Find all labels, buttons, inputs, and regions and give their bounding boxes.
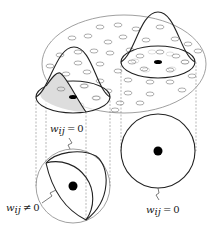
right-support-circle xyxy=(121,114,195,200)
label-bottom-left: wij≠0 xyxy=(6,202,40,215)
label-bottom-right: wij=0 xyxy=(146,204,180,217)
left-bottom-label-pointer xyxy=(42,190,56,203)
left-support-circle xyxy=(36,138,110,223)
left-support-center xyxy=(69,182,78,191)
right-support-center xyxy=(154,147,163,156)
right-label-pointer xyxy=(156,188,159,200)
right-kernel xyxy=(121,12,195,78)
left-kernel-center xyxy=(69,95,77,99)
left-top-label-pointer xyxy=(68,138,72,149)
right-kernel-center xyxy=(154,60,162,64)
kernel-diagram: wij=0 wij≠0 wij=0 xyxy=(0,0,209,233)
label-top-left: wij=0 xyxy=(50,123,84,136)
left-kernel xyxy=(36,47,110,113)
